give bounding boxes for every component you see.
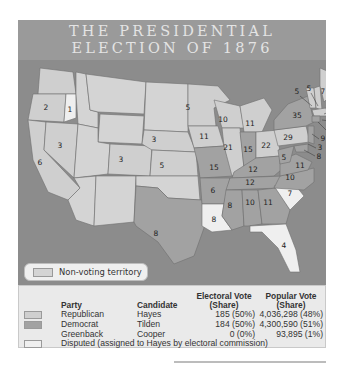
header-popular-vote: Popular Vote (Share) — [259, 292, 323, 309]
ev-oregon-disputed: 1 — [68, 105, 73, 114]
ev-maryland: 8 — [317, 152, 322, 161]
ev-texas: 8 — [154, 229, 159, 238]
ev-new-jersey: 9 — [321, 134, 326, 143]
ev-pennsylvania: 29 — [283, 133, 293, 142]
ev-california: 6 — [38, 158, 43, 167]
electoral-vote: 184 (50%) — [215, 319, 255, 329]
ev-virginia: 11 — [295, 161, 305, 170]
ev-michigan: 11 — [245, 119, 255, 128]
ev-nebraska: 3 — [152, 135, 157, 144]
ev-alabama: 10 — [245, 198, 255, 207]
territory-montana — [86, 74, 146, 114]
non-voting-territory-key: Non-voting territory — [24, 263, 148, 281]
disputed-swatch — [24, 340, 42, 348]
ev-oregon: 2 — [44, 103, 49, 112]
ev-north-carolina: 10 — [285, 173, 295, 182]
election-map-figure: THE PRESIDENTIAL ELECTION OF 1876 — [18, 20, 326, 348]
us-map-svg: 2 1 6 3 3 3 5 8 5 11 15 6 8 10 21 11 15 … — [18, 60, 326, 285]
state-kansas — [150, 150, 198, 176]
republican-swatch — [24, 311, 42, 319]
candidate-name: Tilden — [137, 319, 160, 329]
ev-minnesota: 5 — [186, 103, 191, 112]
non-voting-label: Non-voting territory — [59, 267, 142, 277]
party-name: Republican — [61, 309, 104, 319]
state-florida — [250, 224, 300, 272]
party-name: Democrat — [61, 319, 98, 329]
state-washington — [38, 68, 76, 94]
territory-dakota — [144, 82, 188, 132]
results-legend: Party Candidate Electoral Vote (Share) P… — [18, 285, 326, 348]
ev-ohio: 22 — [261, 141, 271, 150]
electoral-vote: 185 (50%) — [215, 309, 255, 319]
non-voting-swatch — [33, 268, 53, 277]
title-line-2: ELECTION OF 1876 — [18, 40, 326, 57]
state-connecticut — [312, 116, 320, 122]
header-popular-vote-line2: (Share) — [259, 301, 323, 310]
legend-row-republican: Republican Hayes 185 (50%) 4,036,298 (48… — [19, 309, 327, 319]
ev-mississippi: 8 — [228, 201, 233, 210]
ev-kentucky: 12 — [248, 165, 258, 174]
ev-south-carolina: 7 — [288, 189, 293, 198]
ev-louisiana: 8 — [212, 215, 217, 224]
ev-west-virginia: 5 — [282, 153, 287, 162]
ev-georgia: 11 — [263, 198, 273, 207]
us-map: 2 1 6 3 3 3 5 8 5 11 15 6 8 10 21 11 15 … — [18, 60, 326, 285]
ev-indiana: 15 — [243, 145, 253, 154]
candidate-name: Hayes — [137, 309, 161, 319]
ev-maine: 7 — [321, 87, 326, 96]
popular-vote: 4,036,298 (48%) — [259, 309, 323, 319]
territory-wyoming — [98, 114, 144, 144]
ev-nevada: 3 — [58, 141, 63, 150]
democrat-swatch — [24, 321, 42, 329]
ev-florida: 4 — [282, 241, 287, 250]
header-electoral-vote: Electoral Vote (Share) — [193, 292, 255, 309]
ev-missouri: 15 — [209, 163, 219, 172]
decorative-rule — [174, 361, 326, 363]
territory-new-mexico — [94, 176, 136, 226]
ev-arkansas: 6 — [211, 186, 216, 195]
legend-row-democrat: Democrat Tilden 184 (50%) 4,300,590 (51%… — [19, 319, 327, 329]
state-colorado — [108, 144, 152, 176]
ev-colorado: 3 — [119, 155, 124, 164]
ev-wisconsin: 10 — [218, 115, 228, 124]
title-line-1: THE PRESIDENTIAL — [18, 23, 326, 40]
legend-row-disputed: Disputed (assigned to Hayes by electoral… — [19, 338, 327, 348]
ev-iowa: 11 — [199, 132, 209, 141]
header-electoral-vote-line2: (Share) — [193, 301, 255, 310]
ev-kansas: 5 — [160, 161, 165, 170]
ev-new-hampshire: 5 — [307, 84, 312, 93]
map-title: THE PRESIDENTIAL ELECTION OF 1876 — [18, 20, 326, 60]
ev-tennessee: 12 — [245, 178, 255, 187]
ev-new-york: 35 — [292, 111, 302, 120]
state-nebraska — [142, 130, 196, 152]
disputed-note: Disputed (assigned to Hayes by electoral… — [61, 338, 268, 348]
ev-vermont: 5 — [295, 87, 300, 96]
ev-delaware: 3 — [318, 143, 323, 152]
state-massachusetts — [312, 108, 326, 116]
ev-illinois: 21 — [223, 143, 233, 152]
popular-vote: 4,300,590 (51%) — [259, 319, 323, 329]
